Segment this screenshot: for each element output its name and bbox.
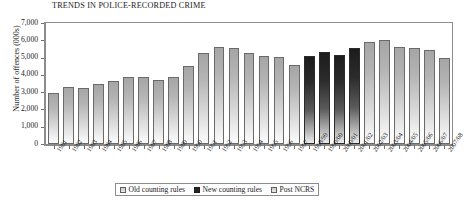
- bar[interactable]: [229, 48, 240, 144]
- legend-swatch-icon: [271, 187, 277, 193]
- y-tick-label: 5,000: [21, 52, 38, 61]
- bar[interactable]: [93, 84, 104, 145]
- y-tick-label: 0: [34, 139, 38, 148]
- y-axis-ticks: 01,0002,0003,0004,0005,0006,0007,000: [0, 0, 45, 167]
- bar-series: [46, 23, 452, 144]
- legend-item-post[interactable]: Post NCRS: [271, 185, 314, 194]
- bar[interactable]: [244, 53, 255, 144]
- bar[interactable]: [168, 77, 179, 144]
- legend-swatch-icon: [120, 187, 126, 193]
- y-tick-label: 7,000: [21, 18, 38, 27]
- chart-legend: Old counting rulesNew counting rulesPost…: [115, 183, 319, 196]
- chart-title: TRENDS IN POLICE-RECORDED CRIME: [52, 1, 206, 10]
- bar[interactable]: [304, 56, 315, 144]
- bar[interactable]: [78, 88, 89, 144]
- bar[interactable]: [183, 66, 194, 144]
- bar[interactable]: [409, 48, 420, 144]
- y-tick-label: 2,000: [21, 104, 38, 113]
- bar[interactable]: [379, 40, 390, 144]
- bar[interactable]: [259, 56, 270, 144]
- legend-swatch-icon: [194, 187, 200, 193]
- y-tick-label: 1,000: [21, 121, 38, 130]
- x-axis-labels: 1981198219831984198519861987198819891990…: [46, 149, 452, 183]
- bar[interactable]: [63, 87, 74, 144]
- bar[interactable]: [349, 48, 360, 144]
- bar[interactable]: [274, 57, 285, 144]
- bar[interactable]: [108, 81, 119, 144]
- y-tick-label: 4,000: [21, 69, 38, 78]
- legend-label: New counting rules: [203, 185, 262, 194]
- legend-item-new[interactable]: New counting rules: [194, 185, 262, 194]
- bar[interactable]: [48, 93, 59, 144]
- bar[interactable]: [394, 47, 405, 144]
- bar[interactable]: [153, 80, 164, 144]
- bar[interactable]: [289, 65, 300, 145]
- bar[interactable]: [319, 52, 330, 144]
- legend-item-old[interactable]: Old counting rules: [120, 185, 185, 194]
- bar[interactable]: [424, 50, 435, 144]
- bar[interactable]: [364, 42, 375, 144]
- bar[interactable]: [198, 53, 209, 144]
- y-tick-label: 3,000: [21, 87, 38, 96]
- bar[interactable]: [138, 77, 149, 144]
- legend-label: Post NCRS: [280, 185, 315, 194]
- bar[interactable]: [214, 47, 225, 144]
- legend-label: Old counting rules: [129, 185, 186, 194]
- y-tick-label: 6,000: [21, 35, 38, 44]
- bar[interactable]: [123, 77, 134, 144]
